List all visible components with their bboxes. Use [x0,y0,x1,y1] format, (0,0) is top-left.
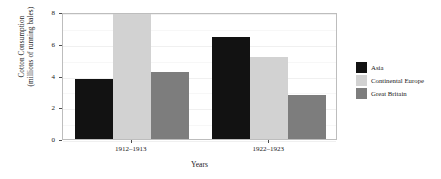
y-tick-label: 0 [39,136,55,144]
y-tick-label: 4 [39,73,55,81]
gridline-minor [63,30,336,31]
bar-asia-1912–1913 [75,79,113,139]
bar-continental-europe-1922–1923 [250,57,288,139]
gridline-major [63,78,336,79]
legend-item: Great Britain [356,87,424,100]
x-tick-mark [268,140,269,143]
x-tick-mark [131,140,132,143]
chart-legend: AsiaContinental EuropeGreat Britain [356,61,424,100]
gridline-major [63,141,336,142]
x-axis-title: Years [62,160,337,169]
legend-swatch-icon [356,88,367,99]
y-tick-label: 2 [39,104,55,112]
plot-area [62,13,337,140]
x-tick-label: 1912–1913 [91,145,171,153]
y-tick-label: 6 [39,41,55,49]
gridline-minor [63,62,336,63]
gridline-major [63,46,336,47]
gridline-major [63,14,336,15]
y-axis-title-line-1: Cotton Consumption [18,0,27,112]
bar-chart: Cotton Consumption (millions of running … [0,0,441,179]
x-tick-label: 1922–1923 [228,145,308,153]
legend-item: Continental Europe [356,74,424,87]
y-axis-title: Cotton Consumption (millions of running … [18,0,35,112]
bar-continental-europe-1912–1913 [113,14,151,139]
y-tick-mark [59,140,62,141]
legend-item: Asia [356,61,424,74]
legend-label: Asia [371,64,383,71]
legend-label: Continental Europe [371,77,424,84]
bar-asia-1922–1923 [212,37,250,139]
y-tick-label: 8 [39,9,55,17]
bar-great-britain-1922–1923 [288,95,326,139]
legend-swatch-icon [356,62,367,73]
bar-great-britain-1912–1913 [151,72,189,139]
y-axis-title-line-2: (millions of running bales) [27,0,36,112]
legend-label: Great Britain [371,90,407,97]
legend-swatch-icon [356,75,367,86]
